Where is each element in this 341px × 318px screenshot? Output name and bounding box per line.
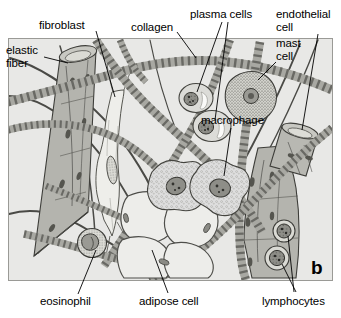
label-fibroblast: fibroblast xyxy=(39,19,85,32)
plasma-cell-upper xyxy=(179,84,213,113)
label-endothelial-cell: endothelial cell xyxy=(276,8,331,33)
panel-letter: b xyxy=(311,257,323,279)
label-mast-cell: mast cell xyxy=(276,37,301,62)
lymphocyte-lower xyxy=(265,246,289,270)
label-eosinophil: eosinophil xyxy=(40,295,91,308)
label-collagen: collagen xyxy=(131,21,173,34)
figure-connective-tissue: elastic fiber fibroblast collagen plasma… xyxy=(0,0,341,318)
illustration-panel xyxy=(8,39,333,283)
label-plasma-cells: plasma cells xyxy=(190,8,252,21)
label-adipose-cell: adipose cell xyxy=(139,295,199,308)
eosinophil-cell xyxy=(78,229,107,258)
label-macrophage: macrophage xyxy=(201,114,264,127)
lymphocyte-upper xyxy=(273,220,295,242)
label-lymphocytes: lymphocytes xyxy=(262,295,325,308)
label-elastic-fiber: elastic fiber xyxy=(6,44,38,69)
